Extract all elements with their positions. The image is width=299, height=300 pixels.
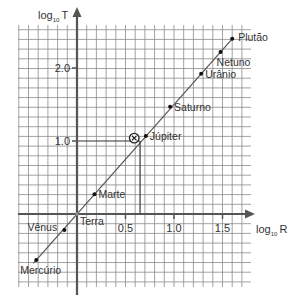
y-tick-label: 1.0 <box>55 135 70 147</box>
data-point <box>199 72 203 76</box>
point-label: Terra <box>80 215 104 227</box>
data-point <box>62 228 66 232</box>
circled-x-marker <box>129 133 139 143</box>
y-axis-arrow-icon <box>73 7 82 17</box>
data-point <box>34 258 38 262</box>
x-tick-label: 1.0 <box>166 222 181 234</box>
point-label: Netuno <box>217 56 251 68</box>
point-label: Vênus <box>27 221 57 233</box>
point-label: Júpiter <box>150 130 182 142</box>
point-label: Urânio <box>205 68 236 80</box>
y-axis-ticks: 1.02.0 <box>55 62 77 147</box>
data-point <box>92 192 96 196</box>
data-point <box>168 105 172 109</box>
x-tick-label: 1.5 <box>215 222 230 234</box>
x-axis-arrow-icon <box>245 210 255 219</box>
point-label: Mercúrio <box>20 264 61 276</box>
point-label: Saturno <box>174 101 211 113</box>
point-label: Plutão <box>238 31 268 43</box>
data-point <box>75 212 79 216</box>
x-tick-label: 0.5 <box>118 222 133 234</box>
data-point <box>144 134 148 138</box>
x-axis-label: log10R <box>256 223 287 237</box>
kepler-log-log-chart: 0.51.01.5 1.02.0 MercúrioVênusTerraMarte… <box>0 0 299 300</box>
y-tick-label: 2.0 <box>55 62 70 74</box>
y-axis-label: log10T <box>38 9 68 23</box>
data-point <box>230 37 234 41</box>
axes <box>18 7 255 295</box>
point-label: Marte <box>98 188 125 200</box>
data-point <box>219 50 223 54</box>
